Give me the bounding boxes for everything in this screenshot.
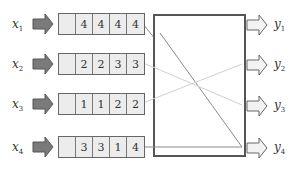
cell: 2 [93, 54, 110, 74]
output-arrow-icon [246, 137, 268, 159]
output-arrow-icon [246, 95, 268, 117]
output-arrow-icon [246, 54, 268, 76]
cell [59, 137, 76, 157]
output-label-y4: y4 [274, 140, 285, 156]
cell: 4 [76, 14, 93, 34]
input-row-x3: 1 1 2 2 [58, 93, 145, 115]
input-label-x3: x3 [12, 97, 23, 113]
input-arrow-icon [32, 13, 54, 35]
input-arrow-icon [32, 53, 54, 75]
cell: 4 [127, 137, 144, 157]
cell: 1 [110, 137, 127, 157]
input-arrow-icon [32, 93, 54, 115]
input-label-x4: x4 [12, 140, 23, 156]
output-label-y2: y2 [274, 57, 285, 73]
input-label-x2: x2 [12, 57, 23, 73]
output-arrow-icon [246, 14, 268, 36]
cell: 2 [110, 94, 127, 114]
input-arrow-icon [32, 136, 54, 158]
cell: 3 [93, 137, 110, 157]
input-row-x2: 2 2 3 3 [58, 53, 145, 75]
cell: 4 [127, 14, 144, 34]
input-row-x4: 3 3 1 4 [58, 136, 145, 158]
cell [59, 14, 76, 34]
cell [59, 94, 76, 114]
cell: 4 [93, 14, 110, 34]
cell: 3 [127, 54, 144, 74]
output-label-y1: y1 [274, 17, 285, 33]
input-label-x1: x1 [12, 17, 23, 33]
output-label-y3: y3 [274, 98, 285, 114]
cell: 3 [110, 54, 127, 74]
input-row-x1: 4 4 4 4 [58, 13, 145, 35]
cell: 1 [76, 94, 93, 114]
cell: 1 [93, 94, 110, 114]
cell: 3 [76, 137, 93, 157]
cell: 2 [127, 94, 144, 114]
cell: 2 [76, 54, 93, 74]
cell [59, 54, 76, 74]
cell: 4 [110, 14, 127, 34]
